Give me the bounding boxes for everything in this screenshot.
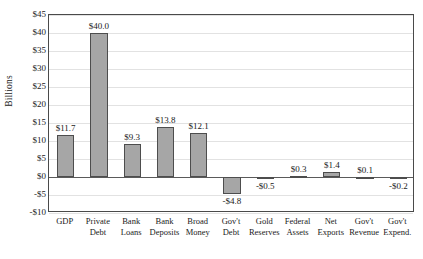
bar[interactable] <box>290 176 307 178</box>
bar-chart: Billions $45$40$35$30$25$20$15$10$5$0-$5… <box>0 0 423 259</box>
bar[interactable] <box>390 177 407 179</box>
y-axis-tick-label: -$10 <box>2 207 46 217</box>
y-axis-tick-label: $25 <box>2 81 46 91</box>
bar-value-label: $0.1 <box>336 165 393 175</box>
x-axis-label-line: Assets <box>281 227 314 238</box>
x-axis-label-line: Gold <box>248 216 281 227</box>
x-axis-label-line: Gov't <box>381 216 414 227</box>
x-axis-label-line: Reserves <box>248 227 281 238</box>
y-axis-tick-label: $35 <box>2 45 46 55</box>
x-axis-category-label: PrivateDebt <box>81 216 114 238</box>
x-axis-category-label: Gov'tDebt <box>214 216 247 238</box>
y-axis-tick-label: $30 <box>2 63 46 73</box>
y-axis-tick-label: $40 <box>2 27 46 37</box>
bar-value-label: $9.3 <box>104 132 161 142</box>
bar[interactable] <box>190 133 207 177</box>
bar-value-label: $12.1 <box>170 121 227 131</box>
gridline <box>49 213 413 214</box>
bar[interactable] <box>157 127 174 177</box>
x-axis-category-label: Gov'tExpend. <box>381 216 414 238</box>
x-axis-category-label: BroadMoney <box>181 216 214 238</box>
x-axis-category-label: FederalAssets <box>281 216 314 238</box>
bar-value-label: $11.7 <box>37 123 94 133</box>
y-axis-tick-label: $10 <box>2 135 46 145</box>
x-axis-category-label: Gov'tRevenue <box>347 216 380 238</box>
x-axis-label-line: Federal <box>281 216 314 227</box>
bar-value-label: -$0.5 <box>237 181 294 191</box>
gridline <box>49 15 413 16</box>
x-axis-label-line: Expend. <box>381 227 414 238</box>
x-axis-label-line: Private <box>81 216 114 227</box>
bar[interactable] <box>90 33 107 177</box>
bar-value-label: $40.0 <box>70 21 127 31</box>
x-axis-label-line: Loans <box>115 227 148 238</box>
y-axis-tick-label: -$5 <box>2 189 46 199</box>
x-axis-label-line: Revenue <box>347 227 380 238</box>
y-axis-tick-label: $45 <box>2 9 46 19</box>
y-axis-tick-label: $0 <box>2 171 46 181</box>
bar-value-label: -$4.8 <box>203 196 260 206</box>
bar[interactable] <box>356 177 373 179</box>
x-axis-label-line: Bank <box>115 216 148 227</box>
x-axis-category-label: BankLoans <box>115 216 148 238</box>
x-axis-category-labels: GDPPrivateDebtBankLoansBankDepositsBroad… <box>48 216 414 256</box>
y-axis-tick-label: $20 <box>2 99 46 109</box>
x-axis-category-label: GDP <box>48 216 81 227</box>
x-axis-label-line: Gov't <box>214 216 247 227</box>
y-axis-tick-label: $5 <box>2 153 46 163</box>
bar[interactable] <box>57 135 74 177</box>
bar-value-label: -$0.2 <box>370 181 423 191</box>
x-axis-category-label: NetExports <box>314 216 347 238</box>
bar[interactable] <box>257 177 274 179</box>
x-axis-label-line: Exports <box>314 227 347 238</box>
x-axis-label-line: Bank <box>148 216 181 227</box>
bar[interactable] <box>124 144 141 177</box>
x-axis-label-line: Money <box>181 227 214 238</box>
x-axis-label-line: Deposits <box>148 227 181 238</box>
x-axis-category-label: BankDeposits <box>148 216 181 238</box>
x-axis-category-label: GoldReserves <box>248 216 281 238</box>
x-axis-label-line: Gov't <box>347 216 380 227</box>
x-axis-label-line: Net <box>314 216 347 227</box>
x-axis-label-line: Debt <box>81 227 114 238</box>
x-axis-label-line: GDP <box>48 216 81 227</box>
x-axis-label-line: Broad <box>181 216 214 227</box>
plot-area: $11.7$40.0$9.3$13.8$12.1-$4.8-$0.5$0.3$1… <box>48 14 414 212</box>
x-axis-label-line: Debt <box>214 227 247 238</box>
